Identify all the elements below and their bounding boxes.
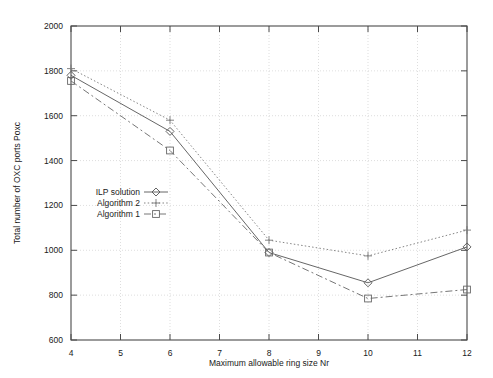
x-tick-label: 8 — [267, 348, 272, 358]
x-tick-label: 7 — [217, 348, 222, 358]
y-tick-label: 800 — [49, 290, 63, 300]
x-tick-label: 4 — [69, 348, 74, 358]
legend-label-2: Algorithm 2 — [97, 198, 140, 208]
legend-label-3: Algorithm 1 — [97, 209, 140, 219]
y-axis-tick-labels: 600800100012001400160018002000 — [44, 21, 63, 345]
y-tick-label: 1000 — [44, 245, 63, 255]
x-tick-label: 10 — [363, 348, 373, 358]
x-tick-label: 9 — [316, 348, 321, 358]
y-tick-label: 1800 — [44, 66, 63, 76]
x-tick-label: 5 — [118, 348, 123, 358]
x-tick-label: 12 — [462, 348, 472, 358]
line-chart: 600800100012001400160018002000 456789101… — [0, 0, 493, 378]
x-tick-label: 6 — [168, 348, 173, 358]
x-axis-title: Maximum allowable ring size Nr — [209, 358, 329, 368]
legend-label-1: ILP solution — [96, 187, 141, 197]
y-tick-label: 600 — [49, 335, 63, 345]
y-axis-title: Total number of OXC ports Poxc — [12, 121, 22, 244]
y-tick-label: 1400 — [44, 156, 63, 166]
y-tick-label: 2000 — [44, 21, 63, 31]
y-tick-label: 1200 — [44, 200, 63, 210]
y-tick-label: 1600 — [44, 111, 63, 121]
x-tick-label: 11 — [413, 348, 422, 358]
x-axis-tick-labels: 456789101112 — [69, 348, 472, 358]
chart-figure: 600800100012001400160018002000 456789101… — [0, 0, 493, 378]
